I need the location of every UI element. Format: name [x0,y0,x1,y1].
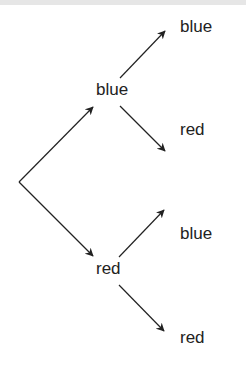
node-level2-red-blue: blue [180,224,212,244]
edge-red-to-blue [119,210,164,257]
edge-root-to-red [19,182,93,256]
node-level2-red-red: red [180,328,205,348]
node-level2-blue-red: red [180,120,205,140]
edge-root-to-blue [19,107,93,182]
node-level2-blue-blue: blue [180,17,212,37]
node-level1-blue: blue [96,80,128,100]
edge-red-to-red [119,285,164,331]
edge-blue-to-red [120,106,165,151]
node-level1-red: red [96,259,121,279]
edge-blue-to-blue [120,31,165,78]
tree-edges [0,0,246,373]
